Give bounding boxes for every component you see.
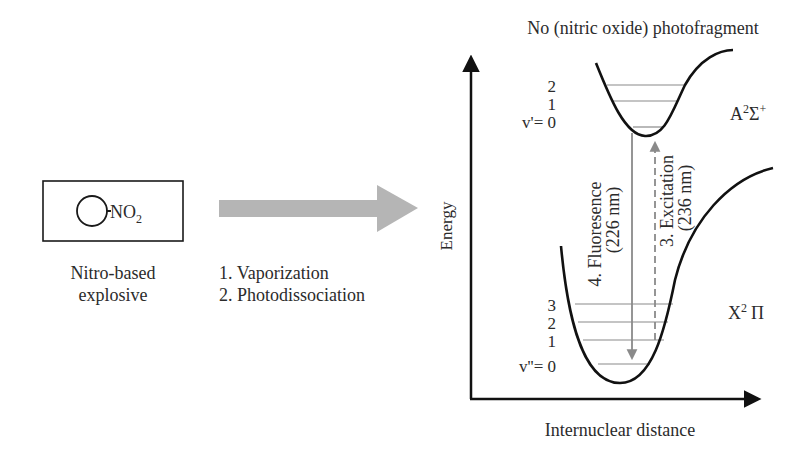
process-arrow-icon	[219, 185, 418, 232]
ring-icon	[77, 196, 107, 226]
y-axis-label: Energy	[437, 201, 456, 250]
lower-level-0: v''= 0	[519, 357, 556, 376]
molecule-label: NO	[110, 202, 136, 222]
lower-level-3: 3	[548, 296, 557, 315]
fluorescence-wavelength: (226 nm)	[603, 187, 624, 254]
lower-state-label: X2Π	[728, 301, 764, 323]
process-step-1: 1. Vaporization	[219, 263, 329, 283]
excitation-wavelength: (236 nm)	[675, 165, 696, 232]
molecule-subscript: 2	[136, 212, 142, 226]
upper-level-1: 1	[548, 95, 557, 114]
explosive-caption-line2: explosive	[79, 285, 148, 305]
lower-state-levels	[575, 304, 673, 364]
upper-potential-curve	[596, 50, 733, 136]
process-step-2: 2. Photodissociation	[219, 285, 365, 305]
diagram-canvas: NO2 Nitro-based explosive 1. Vaporizatio…	[0, 0, 811, 452]
upper-level-0: v'= 0	[522, 113, 556, 132]
energy-diagram-title: No (nitric oxide) photofragment	[527, 18, 758, 39]
lower-level-2: 2	[548, 314, 557, 333]
explosive-molecule-box: NO2	[43, 181, 183, 241]
excitation-label: 3. Excitation	[657, 155, 677, 247]
upper-level-2: 2	[548, 77, 557, 96]
svg-text:NO2: NO2	[110, 202, 142, 226]
fluorescence-label: 4. Fluoresence	[585, 182, 605, 287]
x-axis-label: Internuclear distance	[545, 420, 695, 440]
lower-level-1: 1	[548, 332, 557, 351]
upper-state-label: A2Σ+	[730, 102, 766, 124]
explosive-caption-line1: Nitro-based	[71, 263, 156, 283]
